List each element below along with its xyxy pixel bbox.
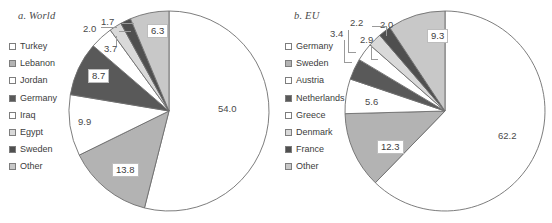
pie-value-label-other: 6.3 [147,24,168,38]
chart-panel-world: a. World TurkeyLebanonJordanGermanyIraqE… [0,0,276,223]
pie-value-label-other: 9.3 [427,29,448,43]
pie-value-label-germany: 62.2 [498,131,517,141]
legend-swatch-icon [9,95,16,102]
legend-item-label: Lebanon [20,59,55,68]
pie-value-label-jordan: 9.9 [78,117,91,127]
legend-swatch-icon [9,77,16,84]
leader-line [371,45,372,59]
legend-swatch-icon [9,60,16,67]
legend-item-label: Germany [296,42,333,51]
legend-item-austria[interactable]: Austria [285,72,345,89]
legend-swatch-icon [285,95,292,102]
pie-value-label-sweden: 12.3 [377,140,404,154]
legend-item-label: Sweden [20,145,53,154]
pie-value-label-austria: 5.6 [365,97,378,107]
leader-line [119,31,131,32]
legend-item-lebanon[interactable]: Lebanon [9,55,57,72]
legend-item-label: Iraq [20,111,36,120]
legend-world: TurkeyLebanonJordanGermanyIraqEgyptSwede… [9,38,57,176]
legend-swatch-icon [285,112,292,119]
legend-item-sweden[interactable]: Sweden [285,55,345,72]
legend-item-label: Denmark [296,128,333,137]
legend-swatch-icon [9,146,16,153]
legend-item-germany[interactable]: Germany [9,90,57,107]
leader-line [386,26,387,36]
legend-swatch-icon [9,129,16,136]
legend-swatch-icon [9,43,16,50]
pie-chart-world [68,10,271,213]
leader-line [122,23,134,24]
legend-swatch-icon [285,146,292,153]
legend-item-label: Austria [296,76,324,85]
legend-item-label: Netherlands [296,94,345,103]
legend-item-label: Egypt [20,128,43,137]
pie-value-label-egypt: 2.0 [83,24,96,34]
leader-line [348,30,349,52]
legend-swatch-icon [285,60,292,67]
leader-line [344,62,352,63]
legend-item-label: Jordan [20,76,48,85]
legend-item-iraq[interactable]: Iraq [9,107,57,124]
legend-item-other[interactable]: Other [9,158,57,175]
legend-swatch-icon [285,43,292,50]
pie-value-label-turkey: 54.0 [218,104,237,114]
legend-item-germany[interactable]: Germany [285,38,345,55]
pie-value-label-germany: 8.7 [88,69,109,83]
legend-swatch-icon [9,112,16,119]
leader-line [344,40,345,62]
legend-swatch-icon [285,77,292,84]
legend-item-greece[interactable]: Greece [285,107,345,124]
pie-value-label-lebanon: 13.8 [112,163,139,177]
legend-item-label: Greece [296,111,326,120]
legend-item-jordan[interactable]: Jordan [9,72,57,89]
legend-item-label: Other [296,162,319,171]
legend-item-label: Germany [20,94,57,103]
leader-line [101,27,117,28]
legend-item-turkey[interactable]: Turkey [9,38,57,55]
leader-line [116,36,117,46]
legend-swatch-icon [285,163,292,170]
leader-line [371,59,378,60]
legend-item-other[interactable]: Other [285,158,345,175]
legend-swatch-icon [285,129,292,136]
legend-item-label: France [296,145,324,154]
pie-value-label-netherlands: 3.4 [330,29,343,39]
leader-line [348,52,356,53]
legend-swatch-icon [9,163,16,170]
leader-line [372,26,386,27]
panel-title-eu: b. EU [294,10,320,21]
legend-item-label: Sweden [296,59,329,68]
legend-item-label: Turkey [20,42,47,51]
pie-value-label-sweden: 1.7 [101,17,114,27]
legend-item-sweden[interactable]: Sweden [9,141,57,158]
legend-item-netherlands[interactable]: Netherlands [285,90,345,107]
chart-panel-eu: b. EU GermanySwedenAustriaNetherlandsGre… [276,0,552,223]
legend-item-label: Other [20,162,43,171]
legend-item-france[interactable]: France [285,141,345,158]
legend-item-denmark[interactable]: Denmark [285,124,345,141]
pie-value-label-greece: 2.9 [360,35,373,45]
legend-eu: GermanySwedenAustriaNetherlandsGreeceDen… [285,38,345,176]
pie-value-label-denmark: 2.2 [350,18,363,28]
legend-item-egypt[interactable]: Egypt [9,124,57,141]
panel-title-world: a. World [18,10,55,21]
